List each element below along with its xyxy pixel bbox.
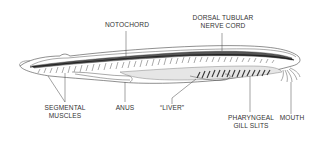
anus-label-text: ANUS [116,104,135,111]
gut-region [120,66,282,80]
mouth-label: MOUTH [272,114,312,122]
segmental-muscles-label-line2: MUSCLES [40,112,90,120]
oral-cirri-shape [281,68,300,82]
dorsal-nerve-cord-label: DORSAL TUBULAR NERVE CORD [188,14,258,29]
anus-label: ANUS [110,104,140,112]
pharyngeal-gill-slits-label-line2: GILL SLITS [220,122,282,130]
nerve-cord-shape [32,51,292,68]
segmental-muscles-label: SEGMENTAL MUSCLES [40,104,90,119]
notochord-label-text: NOTOCHORD [105,21,149,28]
lancelet-diagram: NOTOCHORD DORSAL TUBULAR NERVE CORD SEGM… [0,0,326,142]
notochord-label: NOTOCHORD [96,21,158,29]
mouth-label-text: MOUTH [280,114,305,121]
liver-label-text: “LIVER” [160,104,184,111]
segmental-muscles-label-line1: SEGMENTAL [40,104,90,112]
dorsal-nerve-cord-label-line1: DORSAL TUBULAR [188,14,258,22]
liver-label: “LIVER” [152,104,192,112]
dorsal-nerve-cord-label-line2: NERVE CORD [188,22,258,30]
